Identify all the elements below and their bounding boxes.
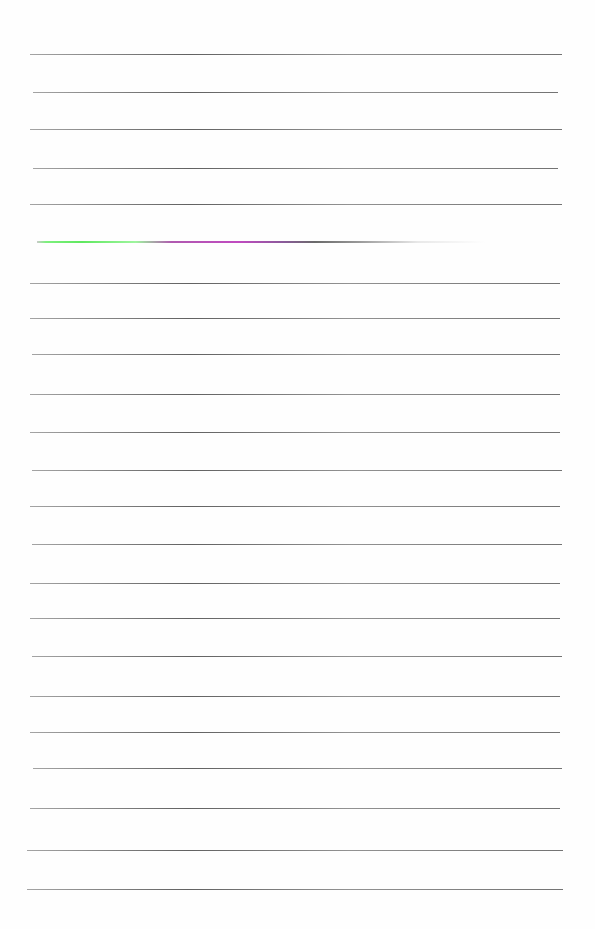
highlighted-rule-line — [37, 241, 485, 243]
rule-line — [32, 470, 562, 471]
rule-line — [30, 696, 560, 697]
rule-line — [30, 129, 562, 130]
rule-line — [30, 732, 560, 733]
rule-line — [32, 544, 562, 545]
rule-line — [30, 432, 560, 433]
rule-line — [30, 394, 560, 395]
rule-line — [30, 506, 560, 507]
rule-line — [33, 768, 562, 769]
rule-line — [33, 92, 558, 93]
rule-line — [30, 583, 560, 584]
rule-line — [30, 618, 560, 619]
rule-line — [30, 318, 560, 319]
rule-line — [30, 204, 562, 205]
rule-line — [30, 283, 560, 284]
lined-paper-sheet — [0, 0, 595, 929]
rule-line — [30, 808, 560, 809]
rule-line — [27, 850, 563, 851]
rule-line — [32, 354, 560, 355]
rule-line — [33, 168, 558, 169]
rule-line — [30, 54, 562, 55]
rule-line — [32, 656, 562, 657]
rule-line — [27, 889, 563, 890]
